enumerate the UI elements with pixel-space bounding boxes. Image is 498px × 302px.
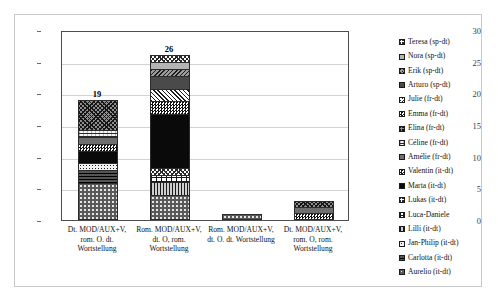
legend-swatch-icon	[399, 169, 405, 175]
y-axis-tick-label: 30	[459, 26, 481, 36]
y-axis-tick-mark	[37, 63, 41, 64]
bar-segment[interactable]	[151, 70, 189, 77]
legend-swatch-icon	[399, 68, 405, 74]
legend-item-label: Valentin (it-dt)	[408, 167, 453, 176]
bar-segment[interactable]	[151, 77, 189, 90]
legend-swatch-icon	[399, 212, 405, 218]
legend-item[interactable]: Lukas (it-dt)	[399, 193, 495, 207]
bar-segment[interactable]	[151, 176, 189, 183]
legend-item-label: Carlotta (it-dt)	[408, 254, 452, 263]
legend-swatch-icon	[399, 241, 405, 247]
legend-item-label: Teresa (sp-dt)	[408, 38, 450, 47]
legend-item[interactable]: Aurelio (it-dt)	[399, 265, 495, 279]
bar-segment[interactable]	[151, 90, 189, 103]
bar-segment[interactable]	[151, 115, 189, 169]
y-axis-tick-label: 5	[459, 184, 481, 194]
bar-segment[interactable]	[79, 164, 117, 171]
legend-item-label: Aurelio (it-dt)	[408, 268, 451, 277]
bar-segment[interactable]	[151, 169, 189, 176]
legend-swatch-icon	[399, 269, 405, 275]
legend-swatch-icon	[399, 82, 405, 88]
legend-item-label: Nora (sp-dt)	[408, 52, 445, 61]
legend-swatch-icon	[399, 111, 405, 117]
y-axis-tick-label: 0	[459, 216, 481, 226]
y-axis-tick-mark	[37, 158, 41, 159]
legend-swatch-icon	[399, 226, 405, 232]
x-axis-label-line: Wortstellung	[271, 244, 355, 254]
y-axis-tick-mark	[37, 31, 41, 32]
legend-item-label: Amélie (fr-dt)	[408, 153, 451, 162]
legend-swatch-icon	[399, 255, 405, 261]
legend-item-label: Elina (fr-dt)	[408, 124, 444, 133]
bar-segment[interactable]	[79, 184, 117, 219]
y-axis-tick-label: 15	[459, 121, 481, 131]
legend-swatch-icon	[399, 197, 405, 203]
bar-segment[interactable]	[151, 102, 189, 115]
legend-item-label: Lilli (it-dt)	[408, 225, 441, 234]
legend-item[interactable]: Teresa (sp-dt)	[399, 35, 495, 49]
legend-swatch-icon	[399, 126, 405, 132]
y-axis-tick-mark	[37, 189, 41, 190]
legend-item[interactable]: Jan-Philip (it-dt)	[399, 236, 495, 250]
bar-segment[interactable]	[79, 171, 117, 184]
legend-item-label: Arturo (sp-dt)	[408, 81, 450, 90]
legend-item-label: Julie (fr-dt)	[408, 95, 443, 104]
gridline	[62, 64, 348, 65]
legend-item[interactable]: Carlotta (it-dt)	[399, 251, 495, 265]
stacked-bar[interactable]	[222, 214, 262, 220]
legend-item-label: Lukas (it-dt)	[408, 196, 446, 205]
y-axis-tick-mark	[37, 221, 41, 222]
legend-item-label: Jan-Philip (it-dt)	[408, 239, 458, 248]
bar-segment[interactable]	[79, 145, 117, 152]
bar-total-label: 26	[165, 44, 174, 54]
bar-segment[interactable]	[151, 56, 189, 63]
legend-item-label: Luca-Daniele	[408, 211, 449, 220]
bar-total-label: 19	[93, 89, 102, 99]
x-axis-labels: Dt. MOD/AUX+V,rom. O. dt.WortstellungRom…	[61, 225, 349, 281]
y-axis-tick-mark	[37, 126, 41, 127]
legend-item[interactable]: Emma (fr-dt)	[399, 107, 495, 121]
legend-item-label: Marta (it-dt)	[408, 182, 446, 191]
bar-segment[interactable]	[151, 63, 189, 70]
legend-item[interactable]: Céline (fr-dt)	[399, 136, 495, 150]
legend-item[interactable]: Valentin (it-dt)	[399, 165, 495, 179]
legend-item-label: Emma (fr-dt)	[408, 110, 448, 119]
bar-segment[interactable]	[79, 101, 117, 131]
plot-area	[61, 31, 349, 221]
y-axis-tick-mark	[37, 94, 41, 95]
stacked-bar[interactable]	[294, 201, 334, 220]
y-axis-tick-label: 25	[459, 58, 481, 68]
bar-segment[interactable]	[79, 131, 117, 138]
y-axis-tick-label: 20	[459, 89, 481, 99]
x-axis-category-label: Dt. MOD/AUX+V,rom. O, rom.Wortstellung	[271, 225, 355, 254]
bar-segment[interactable]	[151, 183, 189, 196]
bar-segment[interactable]	[79, 152, 117, 165]
chart-frame: Dt. MOD/AUX+V,rom. O. dt.WortstellungRom…	[14, 14, 482, 287]
legend-swatch-icon	[399, 54, 405, 60]
legend-swatch-icon	[399, 154, 405, 160]
bar-segment[interactable]	[295, 214, 333, 219]
legend-swatch-icon	[399, 140, 405, 146]
legend-swatch-icon	[399, 97, 405, 103]
gridline	[62, 95, 348, 96]
x-axis-label-line: Wortstellung	[127, 244, 211, 254]
legend-item-label: Erik (sp-dt)	[408, 67, 443, 76]
bar-segment[interactable]	[151, 196, 189, 219]
legend-swatch-icon	[399, 183, 405, 189]
stacked-bar[interactable]	[78, 100, 118, 220]
y-axis-tick-label: 10	[459, 153, 481, 163]
x-axis-label-line: rom. O, rom.	[271, 235, 355, 245]
legend-swatch-icon	[399, 39, 405, 45]
bar-segment[interactable]	[79, 138, 117, 145]
stacked-bar[interactable]	[150, 55, 190, 220]
x-axis-label-line: Dt. MOD/AUX+V,	[271, 225, 355, 235]
bar-segment[interactable]	[223, 215, 261, 219]
legend-item-label: Céline (fr-dt)	[408, 139, 448, 148]
